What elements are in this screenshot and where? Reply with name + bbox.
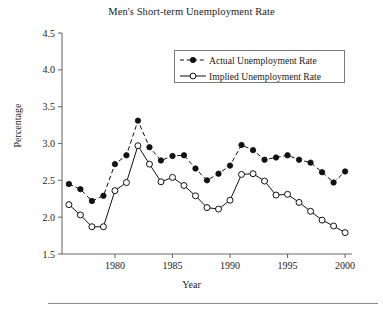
x-tick-label: 2000 (335, 260, 355, 271)
y-tick-label: 2.5 (43, 175, 56, 186)
series-markers-actual (66, 118, 348, 204)
data-point-actual (135, 118, 140, 123)
data-point-implied (319, 217, 325, 223)
data-point-implied (158, 179, 164, 185)
data-point-implied (285, 191, 291, 197)
data-point-implied (192, 193, 198, 199)
data-point-implied (204, 205, 210, 211)
legend-label-actual: Actual Unemployment Rate (209, 55, 317, 66)
data-point-actual (78, 186, 83, 191)
data-point-implied (146, 161, 152, 167)
x-axis-ticks: 19801985199019952000 (105, 254, 355, 271)
data-point-actual (66, 181, 71, 186)
data-point-actual (181, 153, 186, 158)
legend-item-actual: Actual Unemployment Rate (175, 52, 344, 68)
y-tick-label: 4.0 (43, 64, 56, 75)
data-point-actual (204, 178, 209, 183)
data-point-implied (123, 180, 129, 186)
data-point-actual (239, 142, 244, 147)
data-point-implied (169, 174, 175, 180)
x-tick-label: 1990 (220, 260, 240, 271)
series-line-actual (69, 121, 345, 201)
y-tick-label: 2.0 (43, 212, 56, 223)
data-point-implied (227, 197, 233, 203)
data-point-actual (250, 147, 255, 152)
x-tick-label: 1980 (105, 260, 125, 271)
data-point-implied (77, 212, 83, 218)
data-point-actual (147, 144, 152, 149)
data-point-actual (342, 169, 347, 174)
y-tick-label: 3.5 (43, 101, 56, 112)
y-tick-label: 3.0 (43, 138, 56, 149)
legend-key-implied-icon (180, 70, 206, 82)
data-point-implied (112, 188, 118, 194)
legend-key-actual-icon (180, 54, 206, 66)
series-line-implied (69, 146, 345, 233)
data-point-actual (216, 171, 221, 176)
data-point-implied (100, 224, 106, 230)
data-point-actual (124, 153, 129, 158)
chart-legend: Actual Unemployment Rate Implied Unemplo… (174, 50, 345, 83)
data-point-implied (250, 171, 256, 177)
data-point-actual (262, 157, 267, 162)
data-point-implied (331, 223, 337, 229)
data-point-actual (170, 153, 175, 158)
data-point-implied (308, 208, 314, 214)
plot-area: 1.52.02.53.03.54.04.5 198019851990199520… (0, 0, 383, 309)
data-point-actual (296, 157, 301, 162)
y-tick-label: 1.5 (43, 249, 56, 260)
data-point-implied (89, 224, 95, 230)
data-point-actual (158, 158, 163, 163)
data-point-actual (308, 160, 313, 165)
data-point-actual (89, 198, 94, 203)
data-point-implied (273, 192, 279, 198)
data-point-implied (239, 171, 245, 177)
data-point-actual (319, 170, 324, 175)
chart-figure: Men's Short-term Unemployment Rate Perce… (0, 0, 383, 309)
legend-label-implied: Implied Unemployment Rate (209, 71, 321, 82)
data-point-implied (181, 182, 187, 188)
data-point-actual (112, 161, 117, 166)
data-point-actual (285, 153, 290, 158)
data-point-implied (262, 178, 268, 184)
series-markers-implied (66, 143, 348, 236)
data-point-implied (135, 143, 141, 149)
legend-item-implied: Implied Unemployment Rate (175, 68, 344, 84)
data-point-actual (331, 180, 336, 185)
data-point-actual (193, 166, 198, 171)
data-point-implied (296, 199, 302, 205)
x-tick-label: 1995 (278, 260, 298, 271)
data-point-implied (342, 230, 348, 236)
data-point-actual (273, 155, 278, 160)
data-point-implied (66, 202, 72, 208)
y-tick-label: 4.5 (43, 28, 56, 39)
footer-divider (48, 303, 378, 304)
data-point-actual (101, 193, 106, 198)
y-axis-ticks: 1.52.02.53.03.54.04.5 (43, 28, 63, 260)
data-point-actual (227, 163, 232, 168)
x-tick-label: 1985 (162, 260, 182, 271)
data-point-implied (216, 206, 222, 212)
